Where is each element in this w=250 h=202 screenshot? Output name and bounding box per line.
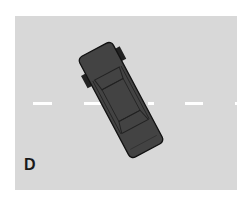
car-icon: [0, 0, 250, 202]
